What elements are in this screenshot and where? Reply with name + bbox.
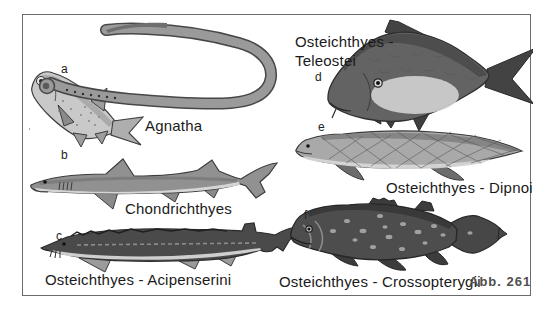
- panel-letter-f: f: [304, 208, 307, 222]
- figure-frame: a Agnatha b Chondrichthyes c Osteichthye…: [22, 14, 531, 296]
- panel-letter-d: d: [315, 70, 322, 84]
- panel-letter-b: b: [61, 148, 68, 162]
- lamprey-sucker-center: [43, 83, 49, 89]
- host-fish-caudal-fin: [111, 117, 143, 145]
- carp-caudal-fin: [485, 48, 533, 104]
- agnatha-illustration: [29, 17, 281, 159]
- coelacanth: [291, 198, 507, 270]
- figure-page: a Agnatha b Chondrichthyes c Osteichthye…: [0, 0, 553, 313]
- coelacanth-tail-epicaudal-lobe: [498, 228, 507, 239]
- panel-letter-e: e: [318, 120, 325, 134]
- carp-belly-patch: [371, 76, 459, 114]
- lungfish: [296, 131, 522, 180]
- coelacanth-pupil: [307, 227, 310, 230]
- shark-eye: [43, 180, 47, 184]
- figure-number-caption: Abb. 261: [469, 274, 531, 289]
- sturgeon-eye: [62, 242, 66, 246]
- lamprey-body: [51, 29, 271, 104]
- label-teleostei-line2: Teleostei: [295, 51, 394, 70]
- sturgeon: [41, 223, 301, 272]
- label-teleostei: Osteichthyes - Teleostei: [295, 32, 394, 70]
- label-acipenserini: Osteichthyes - Acipenserini: [45, 271, 231, 288]
- panel-letter-c: c: [56, 229, 62, 243]
- label-dipnoi: Osteichthyes - Dipnoi: [386, 179, 533, 196]
- label-crossopterygii: Osteichthyes - Crossopterygii: [279, 273, 481, 290]
- crossopterygii-illustration: [285, 197, 507, 275]
- carp-barbel: [332, 109, 336, 118]
- label-teleostei-line1: Osteichthyes -: [295, 32, 394, 51]
- lungfish-eye: [306, 144, 310, 148]
- host-fish-pelvic-fin: [73, 133, 87, 147]
- label-chondrichthyes: Chondrichthyes: [125, 200, 232, 217]
- carp-pupil: [376, 81, 380, 85]
- coelacanth-tail: [451, 216, 504, 253]
- panel-letter-a: a: [61, 62, 68, 76]
- lamprey: [40, 23, 272, 104]
- dipnoi-illustration: [291, 123, 525, 185]
- acipenserini-illustration: [37, 221, 305, 277]
- label-agnatha: Agnatha: [145, 117, 202, 134]
